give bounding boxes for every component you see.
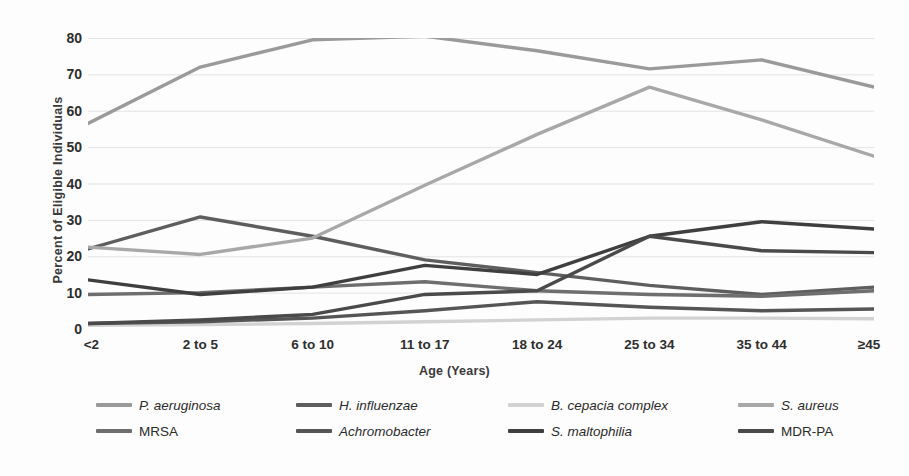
- legend-swatch-icon: [508, 403, 544, 407]
- y-tick-label: 0: [48, 321, 82, 337]
- legend-item[interactable]: S. aureus: [738, 398, 898, 413]
- y-tick-label: 30: [48, 212, 82, 228]
- plot-area: [88, 38, 874, 329]
- y-tick-label: 70: [48, 66, 82, 82]
- legend-swatch-icon: [738, 403, 774, 407]
- legend-label: MDR-PA: [781, 424, 833, 439]
- y-tick-label: 10: [48, 285, 82, 301]
- legend-swatch-icon: [296, 429, 332, 433]
- x-tick-label: 11 to 17: [400, 337, 450, 352]
- legend-item[interactable]: B. cepacia complex: [508, 398, 738, 413]
- legend-swatch-icon: [738, 429, 774, 433]
- legend-item[interactable]: MDR-PA: [738, 424, 898, 439]
- x-tick-label: 18 to 24: [512, 337, 562, 352]
- y-tick-label: 60: [48, 103, 82, 119]
- line-chart-svg: [88, 38, 874, 329]
- legend-label: S. maltophilia: [551, 424, 632, 439]
- chart-figure: Percent of Eligible Individuals 80706050…: [0, 0, 909, 476]
- x-tick-label: <2: [84, 337, 99, 352]
- legend-item[interactable]: H. influenzae: [296, 398, 508, 413]
- x-axis-tick-labels: <22 to 56 to 1011 to 1718 to 2425 to 343…: [88, 337, 874, 363]
- y-tick-label: 20: [48, 248, 82, 264]
- series-lines: [88, 38, 874, 325]
- legend-item[interactable]: P. aeruginosa: [96, 398, 296, 413]
- x-tick-label: ≥45: [858, 337, 880, 352]
- legend-label: B. cepacia complex: [551, 398, 668, 413]
- x-tick-label: 35 to 44: [737, 337, 787, 352]
- legend-label: H. influenzae: [339, 398, 418, 413]
- x-axis-title: Age (Years): [0, 364, 909, 378]
- legend-swatch-icon: [296, 403, 332, 407]
- y-tick-label: 50: [48, 139, 82, 155]
- legend-label: MRSA: [139, 424, 178, 439]
- series-line: [88, 87, 874, 254]
- legend-swatch-icon: [96, 403, 132, 407]
- legend-label: P. aeruginosa: [139, 398, 221, 413]
- series-line: [88, 222, 874, 295]
- legend-label: S. aureus: [781, 398, 839, 413]
- y-tick-label: 80: [48, 30, 82, 46]
- chart-legend: P. aeruginosaH. influenzaeB. cepacia com…: [96, 392, 856, 444]
- series-line: [88, 38, 874, 123]
- x-tick-label: 6 to 10: [291, 337, 334, 352]
- legend-swatch-icon: [508, 429, 544, 433]
- series-line: [88, 217, 874, 294]
- legend-item[interactable]: MRSA: [96, 424, 296, 439]
- legend-item[interactable]: Achromobacter: [296, 424, 508, 439]
- legend-swatch-icon: [96, 429, 132, 433]
- legend-item[interactable]: S. maltophilia: [508, 424, 738, 439]
- x-tick-label: 2 to 5: [183, 337, 218, 352]
- y-axis-tick-labels: 80706050403020100: [42, 0, 82, 476]
- y-tick-label: 40: [48, 176, 82, 192]
- x-tick-label: 25 to 34: [624, 337, 674, 352]
- legend-label: Achromobacter: [339, 424, 431, 439]
